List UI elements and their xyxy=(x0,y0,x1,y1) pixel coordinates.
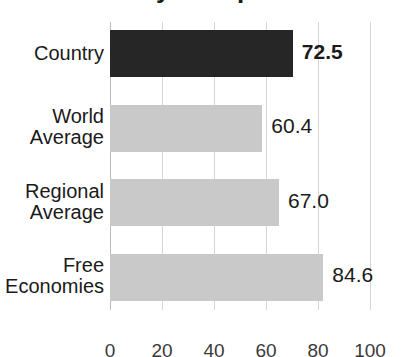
bar xyxy=(110,105,262,152)
x-tick-label: 100 xyxy=(354,340,386,357)
x-tick-label: 20 xyxy=(151,340,172,357)
x-tick-label: 60 xyxy=(255,340,276,357)
x-tick-label: 40 xyxy=(203,340,224,357)
category-label: FreeEconomies xyxy=(0,255,104,297)
category-label: WorldAverage xyxy=(0,106,104,148)
category-label-line: Country xyxy=(0,43,104,64)
category-label: RegionalAverage xyxy=(0,181,104,223)
plot-area: 020406080100 xyxy=(110,22,370,310)
chart-title: Country Comparison xyxy=(0,0,402,5)
bar xyxy=(110,30,293,77)
bar xyxy=(110,179,279,226)
bar-value-label: 60.4 xyxy=(271,114,312,138)
bar-value-label: 72.5 xyxy=(302,40,343,64)
category-label-line: Free xyxy=(0,255,104,276)
category-label-line: Regional xyxy=(0,181,104,202)
category-label-line: Economies xyxy=(0,276,104,297)
bar-chart: Country Comparison 020406080100 72.5Coun… xyxy=(0,0,402,357)
x-tick-label: 80 xyxy=(307,340,328,357)
bar-value-label: 84.6 xyxy=(332,263,373,287)
bar-value-label: 67.0 xyxy=(288,189,329,213)
category-label-line: Average xyxy=(0,202,104,223)
category-label-line: Average xyxy=(0,127,104,148)
category-label: Country xyxy=(0,43,104,64)
bar xyxy=(110,254,323,301)
category-label-line: World xyxy=(0,106,104,127)
x-tick-label: 0 xyxy=(105,340,116,357)
